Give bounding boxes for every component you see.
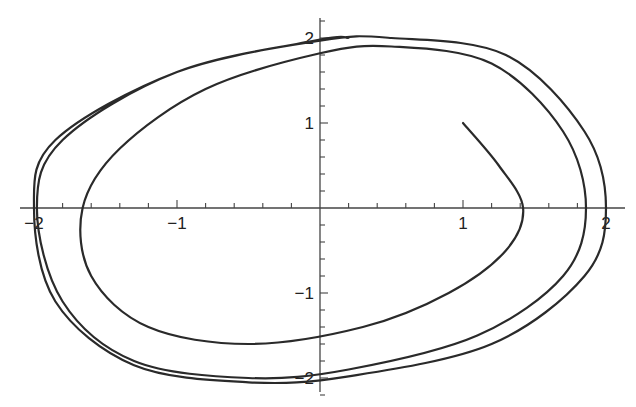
y-tick-label: −2 [295, 369, 314, 388]
phase-portrait-chart: −2−112 −2−112 [0, 0, 636, 407]
y-tick-label: 2 [305, 29, 314, 48]
x-tick-label: −1 [167, 214, 186, 233]
x-tick-label: 1 [458, 214, 467, 233]
y-tick-label: −1 [295, 284, 314, 303]
y-tick-label: 1 [305, 114, 314, 133]
